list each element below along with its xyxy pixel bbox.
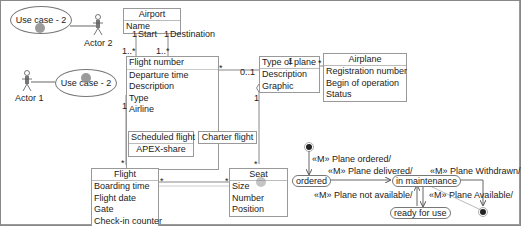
mult-start-many: 1..* <box>122 46 136 56</box>
use-case-bottom-marker <box>81 73 91 83</box>
class-flight-route-attr-1: Departure time <box>127 70 218 82</box>
mult-airline-one: 1 <box>122 101 127 111</box>
mult-flight-seat-many-b: * <box>225 176 229 186</box>
class-charter-flight-name: Charter flight <box>199 132 256 143</box>
role-start: Start <box>138 29 157 39</box>
state-ready-for-use[interactable]: ready for use <box>390 207 451 219</box>
actor-2-icon[interactable] <box>92 14 104 36</box>
class-seat[interactable]: Seat Size Number Position <box>229 168 288 217</box>
final-state <box>480 209 486 215</box>
class-scheduled-flight-attr-0: APEX-share <box>129 144 193 156</box>
seat-marker <box>256 177 266 187</box>
initial-state <box>306 144 312 150</box>
class-flight-route-attr-2: Description <box>127 81 218 93</box>
mult-flight-seat-many-a: * <box>160 176 164 186</box>
transition-plane-ordered: «M» Plane ordered/ <box>312 154 391 164</box>
class-airplane-attr-2: Status <box>324 89 406 101</box>
class-seat-attr-2: Position <box>230 204 287 216</box>
class-flight-name: Flight <box>92 169 158 181</box>
mult-type-airplane-one-b: 1 <box>288 56 293 66</box>
mult-flight-many: * <box>121 158 125 168</box>
actor-1-label: Actor 1 <box>15 93 44 103</box>
class-airplane-attr-0: Registration number <box>324 66 406 78</box>
class-airplane-name: Airplane <box>324 54 406 66</box>
class-flight[interactable]: Flight Boarding time Flight date Gate Ch… <box>91 168 159 226</box>
class-type-of-plane-attr-0: Description <box>260 69 319 81</box>
class-flight-route-attr-4: Airline <box>127 104 218 116</box>
mult-dest-one: 1 <box>164 29 169 39</box>
transition-plane-not-available: «M» Plane not available/ <box>314 190 413 200</box>
class-flight-route-attr-3: Type <box>127 93 218 105</box>
mult-dest-many: 1..* <box>156 46 170 56</box>
class-type-of-plane-attr-1: Graphic <box>260 81 319 93</box>
class-airport-name: Airport <box>124 9 180 21</box>
state-in-maintenance[interactable]: in maintenance <box>392 175 461 187</box>
class-seat-attr-1: Number <box>230 193 287 205</box>
mult-type-seat-one: 1 <box>254 93 259 103</box>
class-flight-attr-2: Gate <box>92 204 158 216</box>
class-flight-attr-1: Flight date <box>92 193 158 205</box>
actor-1-icon[interactable] <box>21 70 33 92</box>
class-flight-attr-0: Boarding time <box>92 181 158 193</box>
mult-type-airplane-many: * <box>318 58 322 68</box>
class-scheduled-flight-name: Scheduled flight <box>129 132 193 144</box>
class-scheduled-flight[interactable]: Scheduled flight APEX-share <box>128 131 194 157</box>
mult-route-type-many: * <box>219 63 223 73</box>
mult-start-one: 1 <box>132 29 137 39</box>
class-flight-route-attr-0: Flight number <box>127 57 218 70</box>
transition-plane-available: «M» Plane Available/ <box>429 190 513 200</box>
role-destination: Destination <box>170 29 215 39</box>
class-charter-flight[interactable]: Charter flight <box>198 131 257 144</box>
use-case-top-marker <box>35 23 45 33</box>
class-flight-attr-3: Check-in counter <box>92 216 158 227</box>
mult-route-type-opt: 0..1 <box>240 67 255 77</box>
class-airplane-attr-1: Begin of operation <box>324 78 406 90</box>
state-ordered[interactable]: ordered <box>292 175 331 187</box>
actor-2-label: Actor 2 <box>84 38 113 48</box>
class-airplane[interactable]: Airplane Registration number Begin of op… <box>323 53 407 102</box>
